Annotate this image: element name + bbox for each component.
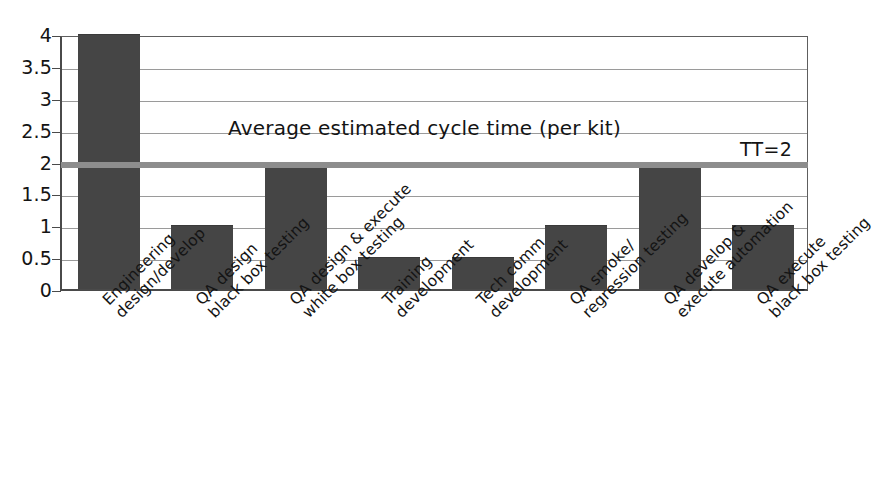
y-axis-tick-mark: [52, 291, 61, 292]
takt-time-label: TT=2: [740, 140, 792, 159]
gridline: [62, 69, 807, 70]
takt-time-reference-line: [61, 162, 808, 168]
y-axis-tick-label: 3.5: [0, 58, 52, 77]
y-axis-tick-label: 2: [0, 154, 52, 173]
gridline: [62, 101, 807, 102]
chart-annotation: Average estimated cycle time (per kit): [228, 118, 621, 138]
y-axis-tick-label: 2.5: [0, 122, 52, 141]
y-axis-tick-label: 0: [0, 281, 52, 300]
y-axis-tick-label: 4: [0, 26, 52, 45]
y-axis-tick-label: 1: [0, 217, 52, 236]
y-axis-tick-label: 0.5: [0, 249, 52, 268]
y-axis-tick-label: 3: [0, 90, 52, 109]
y-axis-tick-label: 1.5: [0, 185, 52, 204]
